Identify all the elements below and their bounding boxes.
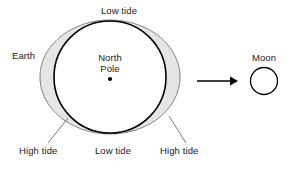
earth-moon-direction-arrow-head — [230, 77, 238, 86]
label-moon: Moon — [239, 52, 289, 63]
leader-line-high-tide-left — [48, 118, 68, 143]
label-high-tide-right: High tide — [160, 145, 198, 156]
tide-diagram-canvas — [0, 0, 289, 169]
leader-line-high-tide-right — [169, 116, 186, 143]
label-low-tide-bottom: Low tide — [85, 145, 141, 156]
label-low-tide-top: Low tide — [89, 5, 149, 16]
tide-diagram: Low tide Earth North Pole Moon High tide… — [0, 0, 289, 169]
label-high-tide-left: High tide — [19, 145, 57, 156]
north-pole-dot — [108, 77, 112, 81]
label-north-pole-line1: North — [80, 52, 140, 63]
moon-circle — [251, 68, 278, 95]
label-earth: Earth — [12, 50, 35, 61]
label-north-pole-line2: Pole — [80, 63, 140, 74]
